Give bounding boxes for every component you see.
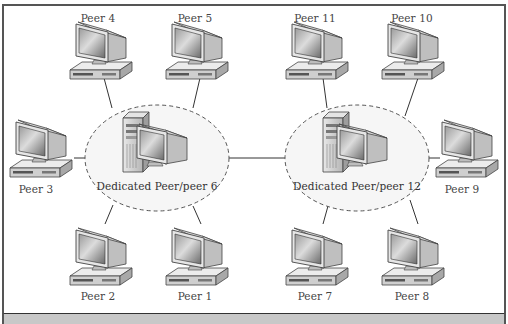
peer-8-label: Peer 8 — [395, 290, 430, 302]
peer-8-computer-icon — [382, 228, 444, 285]
link-peer-11 — [323, 78, 327, 108]
hub-12-label: Dedicated Peer/peer 12 — [293, 180, 421, 192]
peer-11-computer-icon — [286, 22, 348, 79]
peer-11-label: Peer 11 — [294, 12, 335, 24]
peer-1-label: Peer 1 — [178, 290, 213, 302]
peer-10-computer-icon — [382, 22, 444, 79]
peer-4-label: Peer 4 — [81, 12, 116, 24]
peer-7-label: Peer 7 — [298, 290, 333, 302]
peer-5-computer-icon — [166, 22, 228, 79]
link-peer-5 — [193, 78, 200, 108]
peer-4-computer-icon — [70, 22, 132, 79]
link-peer-4 — [104, 78, 112, 108]
link-peer-8 — [410, 200, 418, 224]
peer-10-label: Peer 10 — [391, 12, 432, 24]
peer-9-computer-icon — [436, 120, 498, 177]
network-diagram — [0, 0, 508, 324]
peer-2-label: Peer 2 — [81, 290, 116, 302]
peer-3-label: Peer 3 — [19, 183, 54, 195]
hub-6-label: Dedicated Peer/peer 6 — [96, 180, 217, 192]
peer-7-computer-icon — [286, 228, 348, 285]
peer-2-computer-icon — [70, 228, 132, 285]
peer-3-computer-icon — [10, 120, 72, 177]
peer-9-label: Peer 9 — [445, 183, 480, 195]
peer-1-computer-icon — [166, 228, 228, 285]
link-peer-10 — [405, 78, 418, 116]
link-peer-2 — [105, 205, 113, 224]
peer-5-label: Peer 5 — [178, 12, 213, 24]
link-peer-7 — [323, 206, 328, 224]
link-peer-1 — [193, 206, 201, 224]
